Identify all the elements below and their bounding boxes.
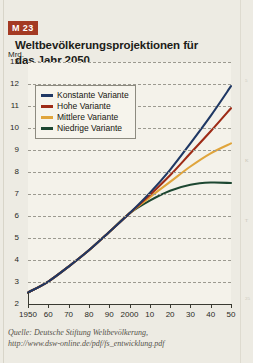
legend-item-label: Niedrige Variante	[57, 123, 122, 134]
margin-mark: 5	[245, 78, 248, 83]
chart-line-niedrige-variante	[28, 182, 231, 292]
figure-number-badge: M 23	[8, 21, 38, 35]
legend-item-label: Mittlere Variante	[57, 112, 118, 123]
legend-color-swatch	[41, 127, 53, 130]
x-axis-tick-label: 50	[218, 310, 244, 319]
y-axis-tick-label: 8	[3, 168, 19, 176]
source-citation: Quelle: Deutsche Stiftung Weltbevölkerun…	[8, 328, 238, 349]
x-axis-tick	[130, 304, 131, 308]
legend-item-label: Hohe Variante	[57, 101, 111, 112]
margin-mark: T	[245, 218, 248, 223]
legend-color-swatch	[41, 105, 53, 108]
y-axis-unit-label: Mrd.	[8, 50, 24, 59]
x-axis-tick	[170, 304, 171, 308]
legend-item: Mittlere Variante	[41, 112, 129, 123]
legend-item: Konstante Variante	[41, 90, 129, 101]
x-axis-tick	[150, 304, 151, 308]
y-axis-tick-label: 7	[3, 190, 19, 198]
y-axis-tick-label: 3	[3, 278, 19, 286]
x-axis-tick	[109, 304, 110, 308]
y-axis-tick-label: 12	[3, 80, 19, 88]
legend-item-label: Konstante Variante	[57, 90, 129, 101]
y-axis-tick-label: 2	[3, 300, 19, 308]
x-axis-tick	[48, 304, 49, 308]
x-axis-tick	[69, 304, 70, 308]
chart-legend: Konstante VarianteHohe VarianteMittlere …	[35, 85, 136, 139]
y-axis-tick-label: 5	[3, 234, 19, 242]
x-axis-tick	[89, 304, 90, 308]
x-axis-tick	[231, 304, 232, 308]
margin-mark: K	[245, 158, 249, 163]
x-axis-tick	[28, 304, 29, 308]
y-axis-tick-label: 9	[3, 146, 19, 154]
page-right-rule	[240, 0, 241, 363]
source-line-2: http://www.dsw-online.de/pdf/fs_entwickl…	[8, 339, 238, 350]
y-axis-tick-label: 4	[3, 256, 19, 264]
legend-color-swatch	[41, 94, 53, 97]
y-axis-tick-label: 10	[3, 124, 19, 132]
x-axis-tick	[211, 304, 212, 308]
chart-line-mittlere-variante	[28, 143, 231, 292]
figure-page: M 23Weltbevölkerungsprojektionen für das…	[0, 0, 253, 363]
y-axis-tick-label: 11	[3, 102, 19, 110]
legend-item: Niedrige Variante	[41, 123, 129, 134]
source-line-1: Quelle: Deutsche Stiftung Weltbevölkerun…	[8, 328, 238, 339]
margin-mark: 25	[245, 296, 250, 301]
figure-header: M 23Weltbevölkerungsprojektionen für das…	[8, 20, 236, 67]
legend-color-swatch	[41, 116, 53, 119]
legend-item: Hohe Variante	[41, 101, 129, 112]
y-axis-tick-label: 6	[3, 212, 19, 220]
page-left-rule	[3, 0, 4, 363]
x-axis-tick	[190, 304, 191, 308]
